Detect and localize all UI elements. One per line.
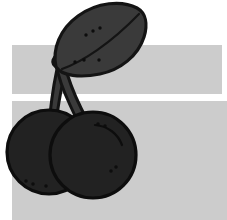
cherry-fruit-right [50, 112, 136, 198]
cherry-right-group [50, 112, 136, 198]
cherry-right-dot-0 [96, 122, 99, 125]
cherries-illustration [0, 0, 227, 220]
leaf-dot-2 [98, 26, 101, 29]
cherry-right-dot-3 [114, 165, 117, 168]
leaf-dot-0 [84, 33, 87, 36]
cherry-right-dot-1 [103, 124, 106, 127]
cherry-left-dot-1 [31, 182, 34, 185]
cherry-right-dot-2 [109, 169, 112, 172]
leaf-dot-1 [91, 29, 94, 32]
cherry-left-dot-0 [24, 179, 27, 182]
leaf-dot-4 [82, 58, 85, 61]
leaf-dot-3 [73, 60, 76, 63]
cherry-left-dot-2 [44, 184, 47, 187]
leaf-dot-5 [97, 58, 100, 61]
illustration-canvas [0, 0, 227, 220]
